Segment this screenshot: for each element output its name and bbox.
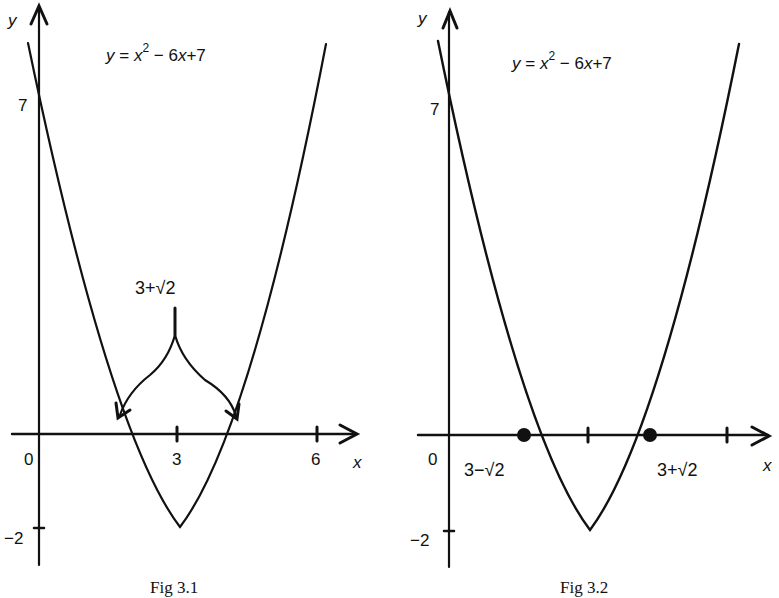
fig2-eq-minus6: − 6: [555, 54, 584, 73]
fig2-root-right-label: 3+√2: [657, 461, 697, 479]
fig2-eq-y: y: [512, 54, 521, 73]
fig2-equation: y = x2 − 6x+7: [512, 52, 612, 72]
fig1-eq-equals: =: [115, 46, 134, 65]
fig2-plot: [418, 11, 769, 567]
fig2-y-axis-label: y: [418, 10, 427, 27]
fig2-caption: Fig 3.2: [560, 578, 608, 598]
fig1-tick-label-7: 7: [18, 97, 27, 114]
fig1-plot: [12, 6, 357, 565]
fig1-equation: y = x2 − 6x+7: [106, 44, 206, 64]
fig2-parabola: [438, 41, 739, 530]
fig1-eq-exponent: 2: [142, 41, 149, 55]
fig2-tick-label-7: 7: [430, 101, 439, 118]
fig2-tick-label-m2: −2: [410, 532, 429, 549]
fig1-tick-label-3: 3: [172, 451, 181, 468]
fig1-caption: Fig 3.1: [150, 578, 198, 598]
fig1-eq-plus7: +7: [186, 46, 205, 65]
fig2-eq-equals: =: [521, 54, 540, 73]
fig2-x-axis-label: x: [763, 457, 772, 474]
fig2-tick-label-0: 0: [428, 451, 437, 468]
fig1-annotation-arrow-left: [120, 335, 175, 415]
fig2-eq-exponent: 2: [548, 49, 555, 63]
fig2-eq-plus7: +7: [592, 54, 611, 73]
fig2-root-right-dot: [643, 428, 657, 442]
fig1-y-axis-label: y: [8, 12, 17, 29]
fig1-tick-label-0: 0: [24, 451, 33, 468]
fig1-eq-minus6: − 6: [149, 46, 178, 65]
fig2-root-left-dot: [517, 428, 531, 442]
fig1-annotation-arrow-right: [175, 335, 236, 416]
fig1-eq-y: y: [106, 46, 115, 65]
fig1-annotation-label: 3+√2: [135, 279, 175, 297]
fig1-tick-label-m2: −2: [4, 530, 23, 547]
fig2-root-left-label: 3−√2: [464, 461, 504, 479]
fig1-x-axis-label: x: [353, 454, 362, 471]
fig1-tick-label-6: 6: [311, 451, 320, 468]
